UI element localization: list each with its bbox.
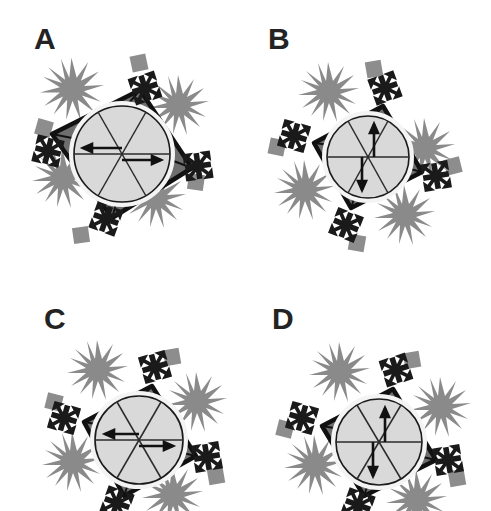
core-d	[333, 396, 425, 488]
starburst-icon	[309, 342, 370, 402]
panel-c: C	[0, 290, 245, 511]
core-c	[92, 393, 186, 487]
gray-square	[130, 54, 149, 73]
four-way-arrow-cross-icon	[432, 444, 464, 476]
panel-d-artwork	[246, 290, 491, 511]
core-b	[324, 113, 412, 201]
panel-c-artwork	[0, 290, 245, 511]
schematic-b	[246, 0, 491, 255]
schematic-d	[246, 290, 491, 511]
gray-square	[72, 226, 90, 244]
core-a	[71, 103, 173, 205]
panel-a-artwork	[0, 0, 245, 255]
starburst-icon	[67, 340, 128, 400]
panel-a: A	[0, 0, 245, 255]
figure-canvas: A	[0, 0, 491, 511]
gray-square	[365, 60, 384, 79]
starburst-icon	[298, 62, 359, 122]
panel-b-artwork	[246, 0, 491, 255]
four-way-arrow-cross-icon	[420, 160, 452, 192]
four-way-arrow-cross-icon	[182, 150, 213, 181]
panel-d: D	[246, 290, 491, 511]
four-way-arrow-cross-icon	[191, 441, 223, 473]
schematic-a	[0, 0, 245, 255]
schematic-c	[0, 290, 245, 511]
panel-b: B	[246, 0, 491, 255]
